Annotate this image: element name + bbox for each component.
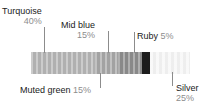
leader-line-turquoise — [44, 27, 45, 53]
label-silver-pct: 25% — [176, 93, 199, 103]
label-silver: Silver 25% — [176, 83, 199, 103]
label-turquoise-name: Turquoise — [2, 6, 42, 16]
label-silver-name: Silver — [176, 83, 199, 93]
bar-segment-mid-blue[interactable] — [118, 52, 142, 74]
label-muted-green-pct: 15% — [73, 85, 91, 95]
label-muted-green: Muted green 15% — [20, 85, 91, 95]
label-ruby: Ruby 5% — [137, 31, 174, 41]
proportion-bar — [31, 52, 190, 74]
label-turquoise: Turquoise 40% — [2, 6, 42, 26]
leader-line-silver — [172, 72, 173, 86]
leader-line-muted-green — [100, 73, 101, 88]
label-mid-blue-pct: 15% — [61, 30, 95, 40]
label-mid-blue: Mid blue 15% — [61, 20, 95, 40]
label-muted-green-name: Muted green — [20, 85, 71, 95]
color-proportion-chart: Turquoise 40% Mid blue 15% Ruby 5% Muted… — [0, 0, 201, 105]
label-turquoise-pct: 40% — [2, 16, 42, 26]
label-ruby-pct: 5% — [161, 31, 174, 41]
bar-segment-muted-green[interactable] — [95, 52, 119, 74]
label-ruby-name: Ruby — [137, 31, 158, 41]
bar-segment-ruby[interactable] — [142, 52, 150, 74]
bar-segment-silver[interactable] — [150, 52, 190, 74]
label-mid-blue-name: Mid blue — [61, 20, 95, 30]
bar-segment-turquoise[interactable] — [31, 52, 95, 74]
leader-line-ruby — [134, 32, 135, 53]
leader-line-mid-blue — [108, 31, 109, 53]
